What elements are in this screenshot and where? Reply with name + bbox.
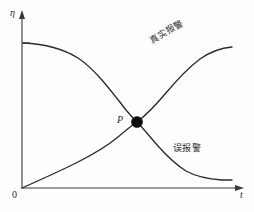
origin-label: 0 [12, 190, 17, 200]
y-axis-arrow-icon [19, 10, 25, 19]
figure-canvas [0, 0, 254, 212]
intersection-point-marker [131, 116, 142, 127]
alarm-rate-figure: η t 0 P 真实报警 误报警 [0, 0, 254, 212]
intersection-point-label: P [117, 115, 123, 125]
false-alarm-curve-label: 误报警 [173, 144, 201, 153]
x-axis-label: t [240, 190, 243, 200]
y-axis-label: η [10, 8, 15, 18]
true-alarm-curve [22, 47, 232, 188]
false-alarm-curve [23, 43, 232, 180]
